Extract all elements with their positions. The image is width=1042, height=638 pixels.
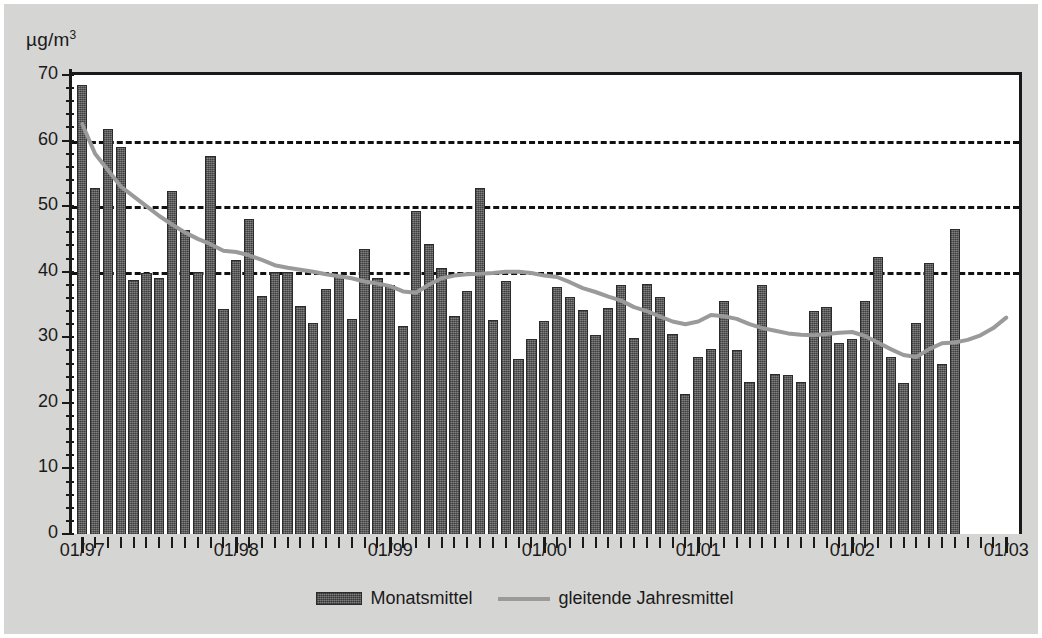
x-tick-03/98 (261, 537, 263, 548)
x-axis-label-01/03: 01/03 (984, 540, 1029, 561)
x-tick-10/02 (967, 537, 969, 548)
x-tick-07/01 (774, 537, 776, 548)
x-tick-03/99 (415, 537, 417, 548)
x-tick-07/97 (158, 537, 160, 548)
x-tick-04/97 (120, 537, 122, 548)
x-tick-11/02 (980, 537, 982, 548)
x-axis-label-01/97: 01/97 (60, 540, 105, 561)
x-tick-10/00 (659, 537, 661, 548)
x-tick-05/99 (441, 537, 443, 548)
x-axis-label-01/02: 01/02 (830, 540, 875, 561)
x-tick-10/99 (505, 537, 507, 548)
y-tick-label-30: 30 (12, 325, 58, 346)
x-tick-06/01 (761, 537, 763, 548)
x-tick-05/01 (749, 537, 751, 548)
x-tick-09/01 (800, 537, 802, 548)
x-tick-03/02 (877, 537, 879, 548)
x-tick-06/97 (145, 537, 147, 548)
x-tick-04/00 (582, 537, 584, 548)
x-tick-11/00 (672, 537, 674, 548)
x-tick-03/97 (107, 537, 109, 548)
x-tick-05/98 (287, 537, 289, 548)
x-axis-label-01/00: 01/00 (522, 540, 567, 561)
x-tick-06/98 (299, 537, 301, 548)
x-tick-06/02 (915, 537, 917, 548)
y-tick-label-0: 0 (12, 522, 58, 543)
line-series-gleitende-jahresmittel (72, 75, 1019, 534)
x-tick-09/99 (492, 537, 494, 548)
y-tick-label-40: 40 (12, 260, 58, 281)
x-tick-05/97 (133, 537, 135, 548)
x-tick-09/98 (338, 537, 340, 548)
legend-bar-swatch (316, 592, 362, 605)
x-tick-09/97 (184, 537, 186, 548)
y-tick-label-50: 50 (12, 194, 58, 215)
x-tick-03/01 (723, 537, 725, 548)
x-tick-08/98 (325, 537, 327, 548)
x-tick-08/01 (787, 537, 789, 548)
x-tick-09/02 (954, 537, 956, 548)
x-axis-label-01/01: 01/01 (676, 540, 721, 561)
x-tick-07/99 (466, 537, 468, 548)
x-tick-10/97 (197, 537, 199, 548)
chart-figure: µg/m3 010203040506070 01/9701/9801/9901/… (0, 0, 1042, 638)
x-tick-06/00 (607, 537, 609, 548)
x-tick-04/98 (274, 537, 276, 548)
x-tick-08/97 (171, 537, 173, 548)
x-tick-11/98 (364, 537, 366, 548)
x-tick-05/02 (903, 537, 905, 548)
x-axis-label-01/98: 01/98 (214, 540, 259, 561)
legend-item-gleitende-jahresmittel: gleitende Jahresmittel (498, 588, 733, 609)
x-tick-04/02 (890, 537, 892, 548)
legend-line-swatch (498, 597, 550, 601)
x-tick-08/02 (941, 537, 943, 548)
x-tick-04/99 (428, 537, 430, 548)
x-tick-08/99 (479, 537, 481, 548)
legend-item-monatsmittel: Monatsmittel (316, 588, 472, 609)
x-tick-05/00 (595, 537, 597, 548)
x-tick-07/00 (620, 537, 622, 548)
legend-label-monatsmittel: Monatsmittel (370, 588, 472, 609)
y-axis-unit-text: µg/m (26, 29, 69, 50)
chart-legend: Monatsmittel gleitende Jahresmittel (4, 588, 1042, 609)
y-tick-label-70: 70 (12, 63, 58, 84)
x-tick-09/00 (646, 537, 648, 548)
x-tick-06/99 (453, 537, 455, 548)
x-tick-11/99 (518, 537, 520, 548)
x-tick-10/98 (351, 537, 353, 548)
y-tick-label-20: 20 (12, 391, 58, 412)
x-axis-label-01/99: 01/99 (368, 540, 413, 561)
plot-area: 010203040506070 (72, 72, 1022, 534)
x-tick-11/01 (826, 537, 828, 548)
x-tick-07/02 (928, 537, 930, 548)
x-tick-07/98 (312, 537, 314, 548)
x-tick-03/00 (569, 537, 571, 548)
y-tick-label-60: 60 (12, 129, 58, 150)
legend-label-gleitende-jahresmittel: gleitende Jahresmittel (558, 588, 733, 609)
y-axis-unit-label: µg/m3 (26, 28, 76, 51)
x-tick-11/97 (210, 537, 212, 548)
x-tick-10/01 (813, 537, 815, 548)
x-tick-04/01 (736, 537, 738, 548)
x-tick-08/00 (633, 537, 635, 548)
y-axis-unit-exponent: 3 (69, 28, 76, 42)
y-tick-label-10: 10 (12, 456, 58, 477)
